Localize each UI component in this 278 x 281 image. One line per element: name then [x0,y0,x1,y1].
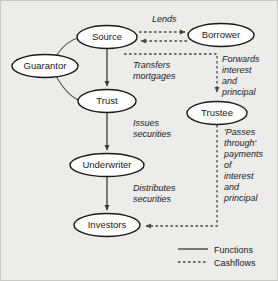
node-borrower[interactable]: Borrower [188,24,254,47]
legend-item-cashflows: Cashflows [178,258,256,268]
edge-label-distributes-securities: Distributes securities [133,183,178,204]
edge-label-issues-securities: Issues securities [133,118,172,139]
legend-label-cashflows: Cashflows [214,258,256,268]
node-trust[interactable]: Trust [78,90,136,113]
node-trustee[interactable]: Trustee [187,102,247,125]
legend-item-functions: Functions [178,245,254,255]
connector-guarantor-trust [56,76,80,101]
node-guarantor-label: Guarantor [24,60,67,71]
node-underwriter[interactable]: Underwriter [70,154,144,177]
edge-label-transfers-mortgages: Transfers mortgages [133,60,176,81]
node-underwriter-label: Underwriter [82,159,131,170]
node-trust-label: Trust [96,95,118,106]
edge-label-lends: Lends [152,14,177,24]
diagram-canvas: Source Borrower Guarantor Trust Trustee … [0,0,278,281]
legend: Functions Cashflows [178,245,256,268]
connector-trustee-investors-passthrough [146,125,217,226]
connector-guarantor-source [56,38,80,57]
node-source[interactable]: Source [77,26,137,49]
node-trustee-label: Trustee [201,107,233,118]
node-investors-label: Investors [88,219,127,230]
node-investors[interactable]: Investors [74,214,140,237]
node-source-label: Source [92,31,122,42]
edge-label-passes-through-payments: 'Passes through' payments of interest an… [223,127,266,203]
node-borrower-label: Borrower [202,29,241,40]
node-guarantor[interactable]: Guarantor [12,55,78,78]
legend-label-functions: Functions [214,245,254,255]
edge-label-forwards-interest-principal: Forwards interest and principal [221,54,262,97]
securitisation-flow-diagram: Source Borrower Guarantor Trust Trustee … [0,0,278,281]
